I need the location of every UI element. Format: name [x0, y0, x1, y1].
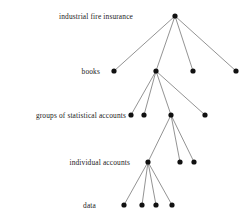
node-group: [111, 13, 238, 207]
level-label-level-1: industrial fire insurance: [0, 12, 133, 21]
tree-node[interactable]: [191, 159, 196, 164]
tree-edge: [144, 71, 156, 115]
tree-node[interactable]: [168, 112, 173, 117]
tree-edge: [131, 71, 156, 115]
level-label-level-5: data: [0, 201, 96, 210]
tree-node[interactable]: [202, 112, 207, 117]
tree-node[interactable]: [177, 159, 182, 164]
tree-node[interactable]: [128, 112, 133, 117]
tree-node[interactable]: [139, 202, 144, 207]
tree-node[interactable]: [145, 159, 150, 164]
tree-edge: [171, 115, 180, 162]
edge-group: [114, 16, 236, 205]
tree-node[interactable]: [153, 202, 158, 207]
tree-node[interactable]: [111, 68, 116, 73]
tree-edge: [124, 162, 148, 205]
tree-node[interactable]: [141, 112, 146, 117]
level-label-level-3: groups of statistical accounts: [0, 111, 126, 120]
tree-edge: [148, 162, 172, 205]
tree-edge: [148, 115, 171, 162]
tree-edge: [142, 162, 148, 205]
tree-edge: [114, 16, 175, 71]
tree-node[interactable]: [190, 68, 195, 73]
tree-node[interactable]: [153, 68, 158, 73]
tree-node[interactable]: [172, 13, 177, 18]
tree-node[interactable]: [169, 202, 174, 207]
tree-diagram-figure: industrial fire insurancebooksgroups of …: [0, 0, 244, 221]
tree-edge: [171, 115, 194, 162]
level-label-level-2: books: [0, 67, 100, 76]
tree-node[interactable]: [121, 202, 126, 207]
tree-node[interactable]: [233, 68, 238, 73]
level-label-level-4: individual accounts: [0, 158, 130, 167]
tree-edge: [148, 162, 156, 205]
